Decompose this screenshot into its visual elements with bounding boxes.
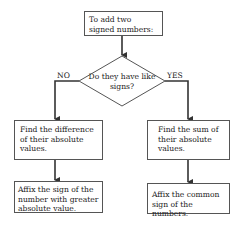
no-step-1-box: Find the difference of their absolute va… bbox=[14, 120, 103, 160]
yes-label: YES bbox=[167, 71, 183, 80]
no-label: NO bbox=[57, 71, 70, 80]
yes-step-1-text: Find the sum of their absolute values. bbox=[158, 125, 219, 153]
no-step-2-box: Affix the sign of the number with greate… bbox=[14, 181, 103, 213]
no-step-1-text: Find the difference of their absolute va… bbox=[20, 125, 94, 153]
yes-step-2-text: Affix the common sign of the numbers. bbox=[152, 190, 219, 218]
no-step-2-text: Affix the sign of the number with greate… bbox=[18, 185, 98, 213]
yes-step-2-box: Affix the common sign of the numbers. bbox=[147, 183, 230, 214]
start-box: To add two signed numbers: bbox=[84, 11, 163, 36]
decision-text: Do they have like signs? bbox=[87, 72, 157, 91]
start-text: To add two signed numbers: bbox=[89, 15, 153, 34]
yes-step-1-box: Find the sum of their absolute values. bbox=[147, 120, 230, 160]
